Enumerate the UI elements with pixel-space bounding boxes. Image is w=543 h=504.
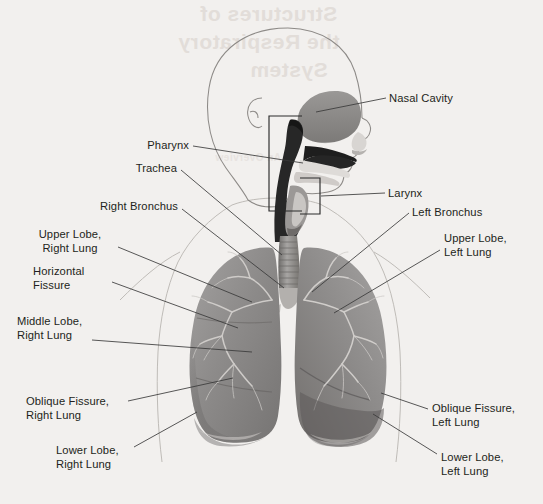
label-lower-lobe-left-lung-line1: Lower Lobe, <box>441 450 504 464</box>
label-upper-lobe-left-lung-line2: Left Lung <box>444 245 507 259</box>
label-larynx-text: Larynx <box>388 187 422 199</box>
label-nasal-cavity-text: Nasal Cavity <box>389 92 453 104</box>
label-pharynx-text: Pharynx <box>147 139 189 151</box>
right-lung <box>190 248 282 447</box>
label-oblique-fissure-right-lung: Oblique Fissure, Right Lung <box>26 394 109 423</box>
label-oblique-fissure-right-lung-line1: Oblique Fissure, <box>26 394 109 408</box>
diagram-canvas: Structures of the Respiratory System An … <box>0 0 543 504</box>
label-horizontal-fissure-line1: Horizontal <box>33 264 84 278</box>
left-lung <box>295 248 387 447</box>
label-oblique-fissure-left-lung-line1: Oblique Fissure, <box>432 401 515 415</box>
label-right-bronchus: Right Bronchus <box>57 199 178 213</box>
label-horizontal-fissure: Horizontal Fissure <box>33 264 84 293</box>
label-middle-lobe-right-lung: Middle Lobe, Right Lung <box>17 314 82 343</box>
label-larynx: Larynx <box>388 186 422 200</box>
leader-oblique-fissure-left <box>381 393 428 409</box>
label-pharynx: Pharynx <box>79 138 189 152</box>
leader-trachea <box>181 170 282 255</box>
label-oblique-fissure-left-lung-line2: Left Lung <box>432 415 515 429</box>
label-lower-lobe-right-lung: Lower Lobe, Right Lung <box>56 443 119 472</box>
label-middle-lobe-right-lung-line1: Middle Lobe, <box>17 314 82 328</box>
label-left-bronchus-text: Left Bronchus <box>412 206 482 218</box>
label-lower-lobe-left-lung-line2: Left Lung <box>441 464 504 478</box>
label-upper-lobe-left-lung-line1: Upper Lobe, <box>444 231 507 245</box>
label-upper-lobe-right-lung-line1: Upper Lobe, <box>26 227 114 241</box>
label-oblique-fissure-left-lung: Oblique Fissure, Left Lung <box>432 401 515 430</box>
label-middle-lobe-right-lung-line2: Right Lung <box>17 328 82 342</box>
label-nasal-cavity: Nasal Cavity <box>389 91 453 105</box>
nasal-cavity <box>298 91 367 155</box>
label-oblique-fissure-right-lung-line2: Right Lung <box>26 408 109 422</box>
label-lower-lobe-right-lung-line2: Right Lung <box>56 457 119 471</box>
label-trachea-text: Trachea <box>136 162 177 174</box>
leader-larynx <box>321 193 385 196</box>
label-right-bronchus-text: Right Bronchus <box>100 200 178 212</box>
oral-cavity <box>294 146 357 186</box>
label-left-bronchus: Left Bronchus <box>412 205 482 219</box>
leader-lower-lobe-left-lung <box>373 414 437 454</box>
label-upper-lobe-right-lung-line2: Right Lung <box>26 241 114 255</box>
label-upper-lobe-right-lung: Upper Lobe, Right Lung <box>26 227 114 256</box>
leader-lower-lobe-right-lung <box>134 412 197 447</box>
label-lower-lobe-left-lung: Lower Lobe, Left Lung <box>441 450 504 479</box>
label-trachea: Trachea <box>71 161 177 175</box>
label-horizontal-fissure-line2: Fissure <box>33 278 84 292</box>
label-upper-lobe-left-lung: Upper Lobe, Left Lung <box>444 231 507 260</box>
label-lower-lobe-right-lung-line1: Lower Lobe, <box>56 443 119 457</box>
